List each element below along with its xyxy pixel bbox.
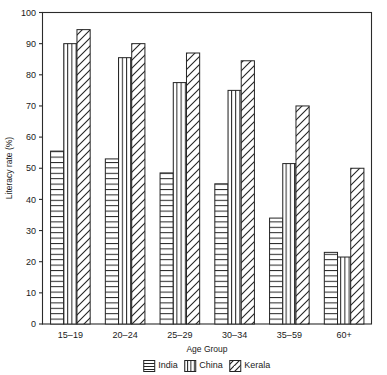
plot-frame <box>43 13 372 325</box>
y-axis: 0102030405060708090100 <box>21 8 43 330</box>
y-tick-label: 30 <box>26 226 36 236</box>
bar-india-2: India 25–29: 48.5 <box>160 173 173 324</box>
x-tick-label: 25–29 <box>167 330 192 340</box>
bar-kerala-5: Kerala 60+: 50 <box>351 168 364 324</box>
x-axis-title: Age Group <box>186 344 227 354</box>
y-tick-label: 40 <box>26 195 36 205</box>
y-tick-label: 100 <box>21 8 36 18</box>
bar-china-5: China 60+: 21.5 <box>338 257 351 324</box>
bar-china-3: China 30–34: 75 <box>228 90 241 324</box>
bar-india-4: India 35–59: 34 <box>270 218 283 324</box>
y-tick-label: 80 <box>26 70 36 80</box>
bar-india-1: India 20–24: 53 <box>105 159 118 324</box>
bar-china-1: China 20–24: 85.5 <box>119 58 132 324</box>
literacy-rate-bar-chart: 0102030405060708090100 India 15–19: 55.5… <box>0 0 387 375</box>
x-tick-label: 15–19 <box>58 330 83 340</box>
legend-swatch-india <box>144 361 155 372</box>
legend-swatch-china <box>185 361 196 372</box>
y-tick-label: 0 <box>31 319 36 329</box>
y-tick-label: 70 <box>26 101 36 111</box>
bars-group: India 15–19: 55.5China 15–19: 90Kerala 1… <box>51 30 364 324</box>
y-tick-label: 90 <box>26 39 36 49</box>
x-tick-label: 30–34 <box>222 330 247 340</box>
legend-swatch-kerala <box>230 361 241 372</box>
bar-china-0: China 15–19: 90 <box>64 44 77 324</box>
legend-label-china: China <box>199 360 223 370</box>
x-tick-label: 60+ <box>336 330 351 340</box>
bar-india-3: India 30–34: 45 <box>215 184 228 324</box>
bar-kerala-2: Kerala 25–29: 87 <box>186 53 199 324</box>
legend-label-kerala: Kerala <box>244 360 270 370</box>
bar-kerala-3: Kerala 30–34: 84.5 <box>241 61 254 324</box>
bar-kerala-1: Kerala 20–24: 90 <box>132 44 145 324</box>
bar-kerala-4: Kerala 35–59: 70 <box>296 106 309 324</box>
y-tick-label: 20 <box>26 257 36 267</box>
x-tick-label: 35–59 <box>277 330 302 340</box>
bar-china-4: China 35–59: 51.5 <box>283 164 296 324</box>
y-tick-label: 10 <box>26 288 36 298</box>
bar-india-0: India 15–19: 55.5 <box>51 151 64 324</box>
bar-china-2: China 25–29: 77.5 <box>173 83 186 324</box>
bar-india-5: India 60+: 23 <box>324 252 337 324</box>
y-axis-title: Literacy rate (%) <box>4 137 14 200</box>
chart-canvas: 0102030405060708090100 India 15–19: 55.5… <box>0 0 387 375</box>
x-axis: 15–1920–2425–2930–3435–5960+ <box>58 330 352 340</box>
x-tick-label: 20–24 <box>113 330 138 340</box>
bar-kerala-0: Kerala 15–19: 94.5 <box>77 30 90 324</box>
legend-label-india: India <box>158 360 178 370</box>
chart-legend: IndiaChinaKerala <box>144 360 271 371</box>
y-tick-label: 60 <box>26 132 36 142</box>
y-tick-label: 50 <box>26 163 36 173</box>
